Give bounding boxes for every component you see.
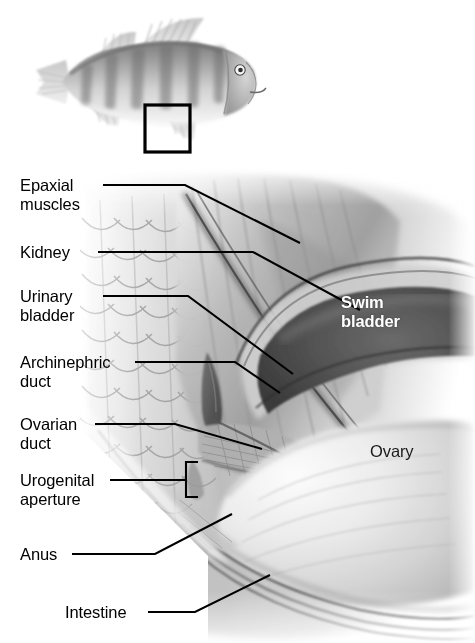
label-intestine: Intestine: [65, 603, 126, 622]
label-urogenital-aperture: Urogenital aperture: [20, 471, 94, 509]
label-epaxial-muscles: Epaxial muscles: [20, 176, 80, 214]
label-swim-bladder: Swim bladder: [341, 293, 400, 331]
anatomy-figure: Epaxial muscles Kidney Urinary bladder A…: [0, 0, 475, 643]
label-urinary-bladder: Urinary bladder: [20, 287, 74, 325]
label-ovarian-duct: Ovarian duct: [20, 415, 77, 453]
main-illustration: [80, 160, 475, 643]
label-archinephric-duct: Archinephric duct: [20, 353, 111, 391]
label-ovary: Ovary: [370, 442, 414, 461]
whole-fish-thumbnail: [18, 8, 338, 158]
label-kidney: Kidney: [20, 243, 70, 262]
label-anus: Anus: [20, 545, 57, 564]
fish-body: [62, 42, 266, 126]
